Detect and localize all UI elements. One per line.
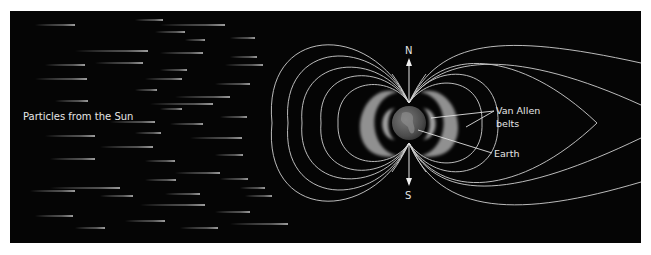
particle-streak [45, 135, 95, 136]
particle-streak [95, 62, 143, 63]
particle-streak [45, 64, 85, 65]
south-label: S [405, 190, 411, 201]
particle-streak [190, 137, 242, 138]
particle-streak [50, 158, 95, 159]
particle-streak [135, 132, 161, 133]
van-allen-label-line2: belts [496, 118, 519, 129]
particle-streak [125, 220, 165, 221]
particle-streak [225, 64, 263, 65]
earth-globe [392, 106, 426, 140]
particle-streak [160, 24, 225, 25]
particle-streak [35, 78, 87, 79]
particle-streak [160, 52, 203, 53]
particle-streak [55, 100, 88, 101]
particle-streak [175, 172, 220, 173]
particle-streak [220, 116, 247, 117]
particle-streak [145, 179, 176, 180]
particle-streak [220, 178, 248, 179]
particle-streak [185, 39, 205, 40]
particle-streak [135, 89, 157, 90]
particle-streak [100, 146, 153, 147]
particle-streak [150, 103, 213, 104]
earth-label: Earth [494, 148, 519, 159]
particle-streak [215, 154, 243, 155]
particle-streak [30, 190, 75, 191]
particle-streak [175, 96, 230, 97]
north-label: N [405, 45, 412, 56]
particle-streak [180, 227, 218, 228]
particle-streak [160, 108, 182, 109]
particle-streak [135, 19, 163, 20]
particle-streak [245, 195, 272, 196]
particle-streak [100, 195, 133, 196]
particle-streak [165, 193, 200, 194]
particle-streak [155, 31, 185, 32]
particle-streak [140, 204, 205, 205]
particle-streak [75, 50, 148, 51]
particle-streak [215, 211, 250, 212]
particles-label: Particles from the Sun [23, 111, 133, 122]
particle-streak [75, 227, 105, 228]
particle-streak [35, 24, 75, 25]
magnetosphere-diagram: N S Van Allen belts Earth Particles from… [0, 0, 651, 255]
particle-streak [160, 69, 187, 70]
particle-streak [35, 215, 73, 216]
particle-streak [230, 37, 255, 38]
particle-streak [50, 187, 120, 188]
particle-streak [215, 83, 250, 84]
particle-streak [240, 187, 265, 188]
particle-streak [230, 56, 257, 57]
space-background [10, 11, 641, 243]
van-allen-label-line1: Van Allen [496, 105, 540, 116]
particle-streak [230, 223, 288, 224]
particle-streak [145, 78, 182, 79]
particle-streak [170, 123, 203, 124]
particle-streak [145, 160, 175, 161]
